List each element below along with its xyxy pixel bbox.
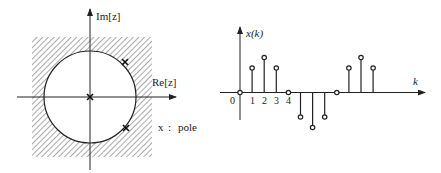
stem-marker [323,115,327,119]
stem-marker [347,66,351,70]
stem-marker [335,90,339,94]
tick-label-4: 4 [286,95,291,106]
legend-symbol: x [158,121,164,133]
z-plane-diagram: Im[z] Re[z] x : pole [17,9,197,170]
tick-label-1: 1 [250,95,255,106]
stem-marker [238,90,242,94]
stem-marker [298,115,302,119]
imag-axis-label: Im[z] [96,10,120,22]
stem-plot: x(k) k 0 1 2 3 4 [220,27,425,130]
legend-text: pole [178,121,197,133]
real-axis-label: Re[z] [152,76,176,88]
stem-marker [310,125,314,129]
tick-label-0: 0 [230,95,235,106]
stem-marker [274,66,278,70]
legend-separator: : [168,121,171,133]
stem-marker [250,66,254,70]
tick-label-2: 2 [262,95,267,106]
x-axis-label: k [413,75,419,87]
tick-label-3: 3 [274,95,279,106]
stem-marker [262,55,266,59]
tick-labels: 0 1 2 3 4 [230,95,291,106]
stem-marker [371,66,375,70]
stem-marker [286,90,290,94]
stem-marker [359,55,363,59]
figure-canvas: Im[z] Re[z] x : pole x(k) k 0 1 2 3 4 [0,0,441,173]
y-axis-label: x(k) [245,27,263,40]
